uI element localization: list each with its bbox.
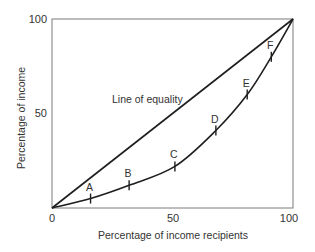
point-label-f: F: [267, 39, 273, 51]
x-tick-50: 50: [167, 212, 179, 224]
curve-points: ABCDEF: [86, 39, 273, 204]
point-label-e: E: [243, 77, 250, 89]
x-tick-0: 0: [49, 212, 55, 224]
x-axis-label: Percentage of income recipients: [98, 229, 248, 241]
point-label-a: A: [86, 181, 93, 193]
x-tick-100: 100: [280, 212, 298, 224]
line-of-equality-label: Line of equality: [112, 93, 183, 105]
lorenz-curve-chart: ABCDEF Line of equality 100 50 0 50 100 …: [0, 0, 315, 252]
point-label-b: B: [125, 167, 132, 179]
y-tick-50: 50: [35, 107, 47, 119]
point-label-c: C: [170, 148, 178, 160]
point-label-d: D: [211, 113, 219, 125]
y-tick-100: 100: [29, 13, 47, 25]
y-axis-label: Percentage of income: [15, 67, 27, 169]
